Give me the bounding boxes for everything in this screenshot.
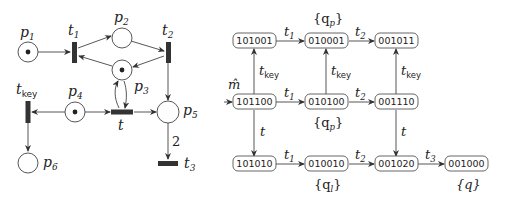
initial-marking-label: m̂ bbox=[228, 77, 240, 92]
arc-t2-p3 bbox=[133, 56, 164, 67]
label-t2-row1: t2 bbox=[355, 24, 366, 41]
label-t1-row3: t1 bbox=[284, 147, 295, 164]
transition-label: t1 bbox=[68, 22, 79, 40]
transition-tkey: tkey bbox=[16, 81, 38, 123]
svg-text:001110: 001110 bbox=[378, 96, 414, 107]
transition-label: t2 bbox=[162, 22, 174, 40]
svg-text:101010: 101010 bbox=[236, 158, 272, 169]
arc-t-p3 bbox=[115, 81, 119, 108]
transition-t1: t1 bbox=[68, 22, 79, 63]
place-p3: p3 bbox=[112, 60, 149, 96]
label-t3: t3 bbox=[425, 147, 436, 164]
annotation-ql: {ql} bbox=[314, 177, 342, 194]
node-101010: 101010 bbox=[233, 156, 276, 171]
node-001110: 001110 bbox=[375, 94, 418, 109]
place-p5: p5 bbox=[157, 101, 198, 123]
label-t2-row3: t2 bbox=[355, 147, 366, 164]
place-p4: p4 bbox=[65, 83, 85, 122]
label-t-2: t bbox=[401, 124, 407, 139]
label-tkey-3: tkey bbox=[401, 63, 421, 80]
transition-label: t bbox=[118, 117, 124, 133]
place-label: p2 bbox=[114, 9, 129, 27]
arc-p2-t2 bbox=[131, 41, 164, 51]
place-label: p5 bbox=[183, 102, 198, 120]
petri-net: p1 p2 p3 p4 p5 p6 t1 bbox=[16, 9, 198, 173]
svg-text:001000: 001000 bbox=[448, 158, 484, 169]
node-001011: 001011 bbox=[375, 33, 418, 48]
label-tkey-2: tkey bbox=[331, 63, 351, 80]
node-010001: 010001 bbox=[305, 33, 348, 48]
label-tkey-1: tkey bbox=[259, 63, 279, 80]
label-t-1: t bbox=[260, 124, 266, 139]
node-010010: 010010 bbox=[305, 156, 348, 171]
node-001020: 001020 bbox=[375, 156, 418, 171]
arc-p3-t bbox=[124, 81, 126, 108]
label-t2-row2: t2 bbox=[355, 85, 366, 102]
arc-t1-p2 bbox=[78, 36, 111, 48]
annotation-qp-top: {qp} bbox=[313, 11, 343, 28]
svg-text:010001: 010001 bbox=[308, 35, 344, 46]
place-label: p6 bbox=[43, 154, 58, 172]
transition-label: tkey bbox=[16, 81, 38, 99]
svg-text:010010: 010010 bbox=[308, 158, 344, 169]
transition-t3: t3 bbox=[158, 155, 196, 173]
arc-p3-t1 bbox=[79, 56, 112, 66]
svg-text:101001: 101001 bbox=[236, 35, 272, 46]
node-010100: 010100 bbox=[305, 94, 348, 109]
token bbox=[73, 110, 78, 115]
svg-text:010100: 010100 bbox=[308, 96, 344, 107]
svg-text:001020: 001020 bbox=[378, 158, 414, 169]
token bbox=[120, 68, 125, 73]
annotation-qp-mid: {qp} bbox=[313, 115, 343, 132]
petri-arcs bbox=[28, 36, 168, 159]
token bbox=[26, 50, 31, 55]
place-p6: p6 bbox=[18, 153, 58, 173]
annotation-q: {q} bbox=[456, 177, 481, 192]
transition-t2: t2 bbox=[162, 22, 174, 63]
place-label: p3 bbox=[134, 78, 149, 96]
node-101001: 101001 bbox=[233, 33, 276, 48]
place-label: p1 bbox=[20, 24, 35, 42]
diagram-canvas: p1 p2 p3 p4 p5 p6 t1 bbox=[0, 0, 505, 204]
transition-label: t3 bbox=[184, 155, 196, 173]
place-label: p4 bbox=[68, 83, 83, 101]
label-t1-row2: t1 bbox=[284, 85, 295, 102]
transition-t: t bbox=[111, 110, 133, 134]
place-p2: p2 bbox=[112, 9, 132, 48]
label-t1-row1: t1 bbox=[284, 24, 295, 41]
svg-text:101100: 101100 bbox=[236, 96, 272, 107]
place-p1: p1 bbox=[18, 24, 38, 62]
node-101100: 101100 bbox=[233, 94, 276, 109]
reachability-graph: 101001 010001 001011 101100 010100 00111… bbox=[224, 11, 488, 194]
arc-weight: 2 bbox=[172, 134, 180, 149]
node-001000: 001000 bbox=[445, 156, 488, 171]
svg-text:001011: 001011 bbox=[378, 35, 414, 46]
